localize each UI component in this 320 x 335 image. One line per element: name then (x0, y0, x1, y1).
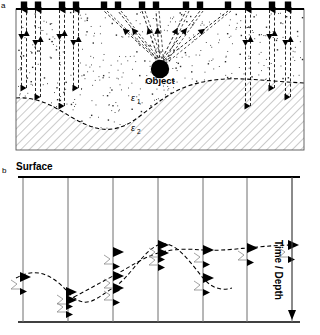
stipple-dot (266, 27, 267, 28)
stipple-dot (137, 39, 138, 40)
stipple-dot (271, 13, 272, 14)
stipple-dot (219, 40, 220, 41)
stipple-dot (31, 52, 32, 53)
stipple-dot (156, 99, 157, 100)
stipple-dot (266, 59, 267, 60)
stipple-dot (178, 26, 179, 27)
stipple-dot (169, 57, 170, 58)
stipple-dot (108, 119, 109, 120)
stipple-dot (164, 30, 165, 31)
stipple-dot (89, 67, 90, 68)
stipple-dot (56, 106, 57, 107)
stipple-dot (23, 55, 24, 56)
stipple-dot (178, 63, 179, 64)
stipple-dot (91, 26, 92, 27)
stipple-dot (87, 71, 88, 72)
wavelet-wiggle (279, 248, 288, 257)
wavelet-peak (203, 273, 214, 283)
stipple-dot (177, 70, 178, 71)
stipple-dot (139, 75, 140, 76)
stipple-dot (80, 63, 81, 64)
stipple-dot (81, 18, 82, 19)
stipple-dot (139, 94, 140, 95)
stipple-dot (256, 15, 257, 16)
stipple-dot (105, 17, 106, 18)
stipple-dot (38, 64, 39, 65)
stipple-dot (151, 46, 152, 47)
stipple-dot (136, 13, 137, 14)
stipple-dot (164, 90, 165, 91)
stipple-dot (52, 29, 53, 30)
stipple-dot (42, 30, 43, 31)
stipple-dot (225, 75, 226, 76)
antenna-marker-7 (153, 2, 159, 9)
stipple-dot (282, 78, 283, 79)
stipple-dot (265, 79, 266, 80)
stipple-dot (57, 99, 58, 100)
stipple-dot (130, 27, 131, 28)
stipple-dot (186, 21, 187, 22)
stipple-dot (127, 60, 128, 61)
stipple-dot (140, 23, 141, 24)
stipple-dot (119, 56, 120, 57)
stipple-dot (95, 80, 96, 81)
stipple-dot (150, 105, 151, 106)
stipple-dot (71, 104, 72, 105)
stipple-dot (53, 36, 54, 37)
stipple-dot (59, 55, 60, 56)
stipple-dot (293, 57, 294, 58)
antenna-marker-11 (245, 2, 251, 9)
stipple-dot (205, 72, 206, 73)
stipple-dot (152, 93, 153, 94)
stipple-dot (264, 65, 265, 66)
stipple-dot (31, 84, 32, 85)
stipple-dot (65, 89, 66, 90)
stipple-dot (185, 52, 186, 53)
stipple-dot (217, 34, 218, 35)
stipple-dot (230, 36, 231, 37)
stipple-dot (51, 23, 52, 24)
stipple-dot (136, 51, 137, 52)
stipple-dot (100, 26, 101, 27)
stipple-dot (24, 37, 25, 38)
stipple-dot (123, 72, 124, 73)
stipple-dot (56, 87, 57, 88)
stipple-dot (35, 13, 36, 14)
stipple-dot (158, 98, 159, 99)
stipple-dot (111, 89, 112, 90)
stipple-dot (87, 20, 88, 21)
stipple-dot (273, 31, 274, 32)
stipple-dot (190, 16, 191, 17)
stipple-dot (244, 73, 245, 74)
stipple-dot (91, 64, 92, 65)
stipple-dot (56, 46, 57, 47)
stipple-dot (115, 112, 116, 113)
stipple-dot (80, 94, 81, 95)
stipple-dot (87, 17, 88, 18)
stipple-dot (131, 109, 132, 110)
stipple-dot (74, 106, 75, 107)
stipple-dot (44, 77, 45, 78)
stipple-dot (117, 105, 118, 106)
stipple-dot (261, 70, 262, 71)
antenna-marker-13 (285, 2, 291, 9)
stipple-dot (93, 36, 94, 37)
stipple-dot (185, 78, 186, 79)
stipple-dot (258, 75, 259, 76)
stipple-dot (125, 56, 126, 57)
wavelet-reflector-5 (279, 240, 299, 263)
stipple-dot (126, 16, 127, 17)
stipple-dot (252, 30, 253, 31)
object-label: Object (145, 75, 175, 86)
stipple-dot (158, 51, 159, 52)
stipple-dot (189, 37, 190, 38)
stipple-dot (265, 35, 266, 36)
stipple-dot (208, 63, 209, 64)
stipple-dot (193, 22, 194, 23)
wavelet-reflector-3 (194, 245, 214, 268)
stipple-dot (236, 27, 237, 28)
stipple-dot (121, 36, 122, 37)
stipple-dot (111, 65, 112, 66)
stipple-dot (220, 13, 221, 14)
stipple-dot (259, 54, 260, 55)
